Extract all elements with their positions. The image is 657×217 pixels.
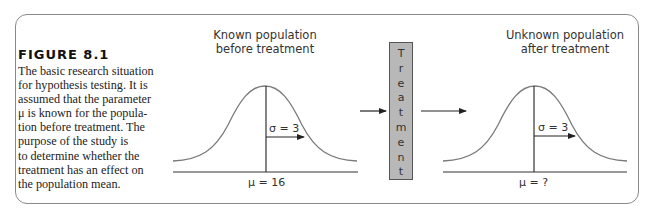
left-sigma-label: σ = 3 [269, 122, 299, 135]
treatment-letter: t [399, 106, 403, 121]
treatment-letter: a [398, 91, 405, 106]
left-mu-label: μ = 16 [248, 176, 285, 189]
treatment-letter: n [398, 151, 405, 166]
right-sigma-label: σ = 3 [538, 121, 568, 134]
known-population-curve [173, 86, 358, 172]
diagram-graphics [0, 0, 657, 217]
unknown-population-curve [443, 86, 627, 172]
treatment-letter: r [399, 62, 404, 77]
right-mu-label: μ = ? [519, 176, 548, 189]
treatment-letter: e [398, 77, 405, 92]
treatment-box: T r e a t m e n t [389, 42, 413, 180]
treatment-letter: T [398, 47, 405, 62]
treatment-letter: m [396, 121, 407, 136]
treatment-letter: t [399, 165, 403, 180]
treatment-letter: e [398, 136, 405, 151]
